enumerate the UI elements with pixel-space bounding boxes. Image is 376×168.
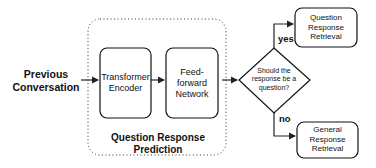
- no-label: no: [279, 113, 291, 124]
- question-retrieval-label: Question Response Retrieval: [298, 13, 354, 42]
- yes-label: yes: [278, 33, 294, 44]
- general-retrieval-label: General Response Retrieval: [300, 125, 355, 154]
- input-label: Previous Conversation: [10, 68, 82, 93]
- transformer-encoder-label: Transformer Encoder: [100, 72, 151, 94]
- feed-forward-label: Feed-forward Network: [166, 67, 218, 99]
- module-title: Question Response Prediction: [90, 132, 226, 156]
- decision-label: Should the response be a question?: [250, 67, 298, 92]
